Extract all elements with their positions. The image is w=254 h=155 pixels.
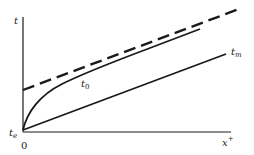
y-axis-label: t [14,15,19,26]
curve-t0-label: t0 [81,78,90,91]
origin-label: 0 [21,140,27,151]
line-tm-label: tm [231,46,242,59]
dashed-asymptote-line [23,9,239,90]
x-axis-label: x+ [222,135,234,148]
line-tm [23,54,226,130]
diagram-canvas: t te 0 x+ t0 tm [0,0,254,155]
y-intercept-label: te [9,127,17,140]
